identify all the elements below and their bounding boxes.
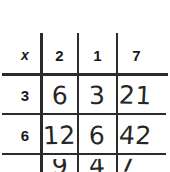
multiplication-table: x 2 1 7 3 6 3 21 6 12 6 42 9 4 7: [0, 0, 170, 172]
table-cell-r3c1-partial: 9: [44, 159, 76, 172]
table-corner-label: x: [12, 42, 38, 68]
table-cell-r2c3: 42: [118, 119, 164, 152]
table-cell-r1c2: 3: [79, 78, 114, 111]
grid-vline-1: [77, 33, 79, 172]
table-cell-r1c3: 21: [118, 79, 164, 112]
grid-hline-1: [2, 113, 166, 115]
column-header-1: 2: [43, 42, 76, 68]
table-cell-r3c2-partial: 4: [80, 158, 114, 172]
table-cell-r3c3-partial: 7: [119, 159, 164, 172]
table-cell-r2c1: 12: [42, 119, 77, 151]
row-header-2: 6: [12, 120, 38, 150]
column-header-3: 7: [119, 42, 154, 68]
table-cell-r1c1: 6: [44, 79, 77, 112]
grid-hline-2: [2, 153, 166, 155]
table-cell-r2c2: 6: [80, 119, 115, 152]
grid-hline-header: [2, 73, 168, 76]
column-header-2: 1: [80, 42, 115, 68]
row-header-1: 3: [12, 80, 38, 110]
